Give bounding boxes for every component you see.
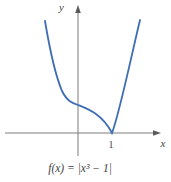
plot-figure: y x 1 f(x) = |x³ − 1| xyxy=(0,0,171,182)
function-curve xyxy=(45,20,140,133)
function-caption: f(x) = |x³ − 1| xyxy=(48,162,112,175)
y-axis-arrow-icon xyxy=(75,5,81,13)
x-axis-label: x xyxy=(160,137,166,149)
plot-canvas: y x 1 f(x) = |x³ − 1| xyxy=(0,0,171,182)
x-tick-label-1: 1 xyxy=(109,139,114,150)
x-axis-arrow-icon xyxy=(153,130,161,136)
y-axis-label: y xyxy=(58,1,64,13)
